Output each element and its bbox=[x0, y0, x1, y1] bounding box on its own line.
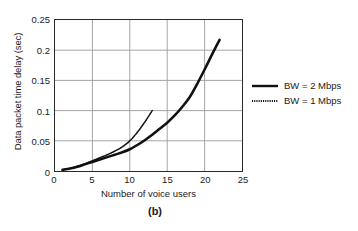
legend-item-bw-2mbps: BW = 2 Mbps bbox=[252, 78, 356, 93]
y-tick-label: 0.15 bbox=[4, 75, 50, 86]
y-tick-label: 0.25 bbox=[4, 14, 50, 25]
figure-panel-b: Data packet time delay (sec) 00.050.10.1… bbox=[0, 0, 358, 231]
legend-item-bw-1mbps: BW = 1 Mbps bbox=[252, 93, 356, 108]
x-tick-label: 20 bbox=[200, 174, 211, 185]
x-tick-label: 10 bbox=[124, 174, 135, 185]
x-tick-label: 15 bbox=[162, 174, 173, 185]
data-curves bbox=[55, 20, 242, 171]
x-axis-title: Number of voice users bbox=[54, 188, 243, 199]
y-tick-label: 0 bbox=[4, 167, 50, 178]
legend-dotted-line-icon bbox=[252, 96, 278, 106]
y-tick-label: 0.05 bbox=[4, 136, 50, 147]
legend-label-bw-2mbps: BW = 2 Mbps bbox=[284, 80, 341, 91]
plot-area bbox=[54, 19, 243, 172]
chart-legend: BW = 2 Mbps BW = 1 Mbps bbox=[252, 78, 356, 108]
x-tick-label: 0 bbox=[51, 174, 56, 185]
x-tick-label: 5 bbox=[89, 174, 94, 185]
x-tick-label: 25 bbox=[238, 174, 249, 185]
y-tick-label: 0.2 bbox=[4, 44, 50, 55]
legend-label-bw-1mbps: BW = 1 Mbps bbox=[284, 95, 341, 106]
y-tick-label: 0.1 bbox=[4, 105, 50, 116]
legend-solid-line-icon bbox=[252, 81, 278, 91]
figure-caption: (b) bbox=[0, 205, 310, 217]
